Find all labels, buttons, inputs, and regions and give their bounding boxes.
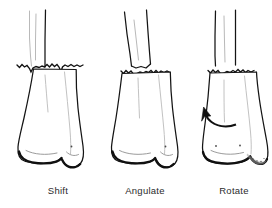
rotate-stipple-dot-4 [249,156,250,157]
panel-caption-angulate: Angulate [125,185,165,197]
panel-caption-shift: Shift [48,185,68,197]
panel-caption-rotate: Rotate [219,185,249,197]
angulate-inner-dot [165,146,167,148]
figure-illustration [0,0,272,208]
shift-inner-dot [71,146,73,148]
rotate-inner-dot-1 [215,145,217,147]
rotate-stipple-dot-2 [256,160,257,161]
angulate-distal-fragment [111,72,178,167]
rotate-inner-shade-2 [224,80,225,122]
shift-shaft-inner-faint [36,14,37,60]
fracture-displacement-figure: Shift Angulate Rotate [0,0,272,208]
rotate-stipple-dot-3 [260,161,261,162]
rotate-inner-dot-2 [239,145,241,147]
rotate-stipple-dot-1 [252,158,253,159]
rotate-shaft-left-edge [215,11,216,66]
rotate-distal-fragment [203,72,268,164]
rotate-stipple-dot-5 [263,158,264,159]
shift-shaft-right-edge [45,10,46,67]
